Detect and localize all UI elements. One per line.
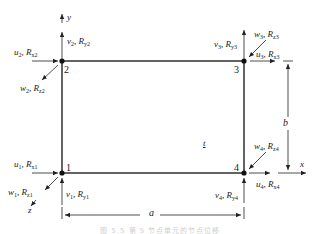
node-2-w-label: w2, Rz2 [20,84,45,94]
w2-arrow [42,65,58,80]
node-1-dot [59,170,64,175]
dim-a-label: a [147,208,156,218]
plate-outline [62,61,244,173]
w4-arrow [249,152,266,169]
node-2-number: 2 [64,65,69,75]
node-2-v-label: v2, Ry2 [67,37,90,47]
node-4-v-label: v4, Ry4 [215,191,238,201]
node-3-u-label: u3, Rx3 [256,50,280,60]
node-1-v-label: v1, Ry1 [66,190,89,200]
node-2-dot [59,58,64,63]
w1-arrow [45,177,58,190]
z-axis-label: z [28,206,32,215]
node-4-u-label: u4, Rx4 [256,180,280,190]
node-4-w-label: w4, Rz4 [254,142,279,152]
node-3-v-label: v3, Ry3 [214,40,237,50]
node-1-w-label: w1, Rz1 [8,188,33,198]
node-3-number: 3 [234,65,239,75]
figure-caption: 图 5.5 第 5 节点单元的节点位移 [100,225,221,234]
node-3-w-label: w3, Rz3 [254,30,279,40]
dim-b-label: b [283,117,288,129]
thickness-label: t [203,139,206,148]
node-1-u-label: u1, Rx1 [14,160,38,170]
node-4-number: 4 [234,163,239,173]
node-3-dot [241,58,246,63]
x-axis-label: x [300,160,304,169]
y-axis-label: y [67,13,71,22]
node-4-dot [241,170,246,175]
node-1-number: 1 [66,163,71,173]
node-2-u-label: u2, Rx2 [14,48,38,58]
